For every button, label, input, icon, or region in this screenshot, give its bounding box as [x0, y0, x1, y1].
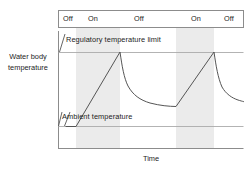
- regulatory-limit-annotation: Regulatory temperature limit: [66, 35, 161, 45]
- on-band-2: [176, 28, 214, 148]
- state-label-off-2: Off: [134, 14, 144, 24]
- state-label-off-1: Off: [63, 14, 73, 24]
- regulatory-leader-line: [60, 34, 66, 52]
- state-label-off-3: Off: [224, 14, 234, 24]
- diagram-canvas: [0, 0, 250, 172]
- ambient-temperature-annotation: Ambient temperature: [62, 112, 132, 122]
- temperature-cycle-diagram: Water body temperature Time Off On Off O…: [0, 0, 250, 172]
- state-bar-outline: [59, 11, 244, 28]
- state-label-on-2: On: [191, 14, 201, 24]
- on-band-1: [76, 28, 120, 148]
- y-axis-title: Water body temperature: [2, 52, 54, 73]
- state-label-on-1: On: [88, 14, 98, 24]
- x-axis-title: Time: [58, 154, 244, 163]
